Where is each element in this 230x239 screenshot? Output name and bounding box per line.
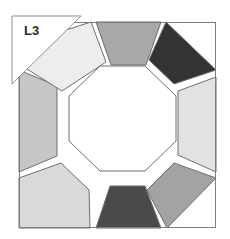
label-tab-text: L3 (24, 23, 39, 38)
wheel-segment-left (19, 70, 57, 172)
quilt-block-svg: L3 (0, 0, 230, 239)
wheel-segment-right (178, 77, 216, 172)
quilt-block-figure: L3 (0, 0, 230, 239)
center-octagon (69, 66, 176, 171)
